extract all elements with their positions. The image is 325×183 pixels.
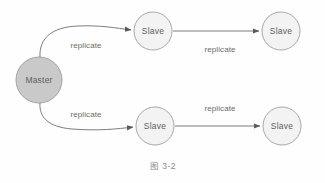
edge-master-to-slave-bottom-1: replicate [40, 103, 133, 130]
master-node-label: Master [25, 75, 52, 85]
edge-master-to-slave-top-1: replicate [40, 26, 131, 57]
nodes-layer: Master Slave Slave Slave Slave [16, 12, 301, 145]
figure-caption: 图 3-2 [150, 161, 176, 171]
slave-node-label: Slave [142, 26, 164, 36]
edge-slave-top-1-to-slave-top-2: replicate [173, 31, 259, 54]
diagram-canvas: replicate replicate replicate replicate … [0, 0, 325, 183]
node-slave-top-2: Slave [262, 12, 300, 50]
edge-label-replicate: replicate [70, 110, 102, 119]
edge-slave-bottom-1-to-slave-bottom-2: replicate [175, 104, 260, 126]
slave-node-label: Slave [270, 26, 292, 36]
edge-label-replicate: replicate [70, 41, 102, 50]
edge-label-replicate: replicate [204, 45, 236, 54]
node-slave-top-1: Slave [134, 12, 172, 50]
slave-node-label: Slave [144, 121, 166, 131]
slave-node-label: Slave [271, 121, 293, 131]
node-slave-bottom-2: Slave [263, 107, 301, 145]
replication-diagram: replicate replicate replicate replicate … [0, 0, 325, 183]
node-slave-bottom-1: Slave [136, 107, 174, 145]
edge-label-replicate: replicate [204, 104, 236, 113]
node-master: Master [16, 57, 62, 103]
